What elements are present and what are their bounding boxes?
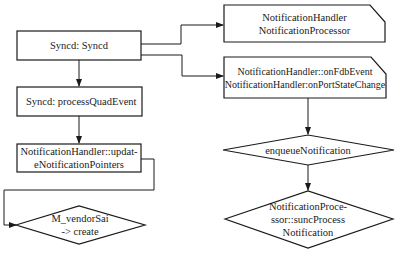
label-sync-process-notification: NotificationProce- ssor::suncProcess Not…	[250, 191, 366, 248]
edge-syncd-to-on-events	[141, 55, 223, 76]
label-vendor-create: M_vendorSai -> create	[30, 206, 130, 244]
label-process-quad-event: Syncd: processQuadEvent	[17, 87, 142, 116]
label-enqueue-notification: enqueueNotification	[240, 135, 376, 165]
edge-syncd-to-handler-processor	[141, 25, 223, 44]
label-update-notification-pointers: NotificationHandler::updat- eNotificatio…	[17, 144, 141, 172]
label-on-events: NotificationHandler::onFdbEvent Notifica…	[224, 57, 386, 98]
label-handler-processor: NotificationHandler NotificationProcesso…	[224, 5, 385, 42]
label-syncd: Syncd: Syncd	[17, 31, 141, 60]
